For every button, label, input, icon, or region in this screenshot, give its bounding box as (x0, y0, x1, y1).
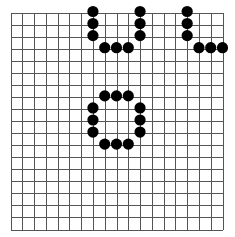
game-board[interactable] (0, 0, 235, 237)
black-stone[interactable] (134, 114, 145, 125)
black-stone[interactable] (87, 30, 98, 41)
black-stone[interactable] (182, 6, 193, 17)
black-stone[interactable] (134, 6, 145, 17)
black-stone[interactable] (182, 18, 193, 29)
black-stone[interactable] (111, 139, 122, 150)
black-stone[interactable] (87, 6, 98, 17)
black-stone[interactable] (99, 139, 110, 150)
black-stone[interactable] (111, 42, 122, 53)
black-stone[interactable] (87, 126, 98, 137)
black-stone[interactable] (123, 42, 134, 53)
black-stone[interactable] (123, 90, 134, 101)
black-stone[interactable] (182, 30, 193, 41)
black-stone[interactable] (99, 90, 110, 101)
black-stone[interactable] (99, 42, 110, 53)
black-stone[interactable] (134, 30, 145, 41)
black-stone[interactable] (134, 102, 145, 113)
black-stone[interactable] (87, 102, 98, 113)
black-stone[interactable] (123, 139, 134, 150)
black-stone[interactable] (87, 114, 98, 125)
black-stone[interactable] (134, 126, 145, 137)
black-stone[interactable] (87, 18, 98, 29)
black-stone[interactable] (111, 90, 122, 101)
black-stone[interactable] (193, 42, 204, 53)
black-stone[interactable] (205, 42, 216, 53)
black-stone[interactable] (134, 18, 145, 29)
black-stone[interactable] (217, 42, 228, 53)
